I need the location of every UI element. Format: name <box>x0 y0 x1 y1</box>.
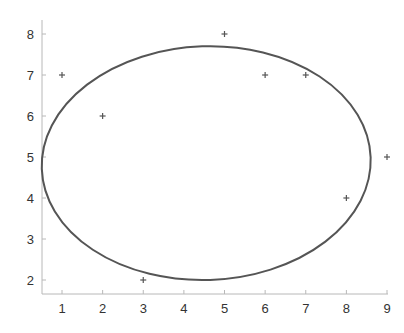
scatter-chart: 1234567892345678 <box>0 0 404 333</box>
data-point-marker <box>222 31 228 37</box>
y-tick-label: 5 <box>27 150 34 165</box>
ellipse-annotation <box>38 41 375 286</box>
y-tick-label: 3 <box>27 232 34 247</box>
x-tick-label: 5 <box>221 301 228 316</box>
data-point-marker <box>59 72 65 78</box>
x-tick-label: 4 <box>180 301 187 316</box>
x-tick-label: 9 <box>383 301 390 316</box>
data-point-marker <box>303 72 309 78</box>
data-point-marker <box>262 72 268 78</box>
x-tick-label: 7 <box>302 301 309 316</box>
x-tick-label: 6 <box>262 301 269 316</box>
data-point-marker <box>100 113 106 119</box>
x-tick-label: 3 <box>140 301 147 316</box>
x-tick-label: 2 <box>99 301 106 316</box>
y-tick-label: 4 <box>27 191 34 206</box>
data-point-marker <box>384 154 390 160</box>
tick-labels: 1234567892345678 <box>27 27 391 316</box>
data-point-marker <box>343 195 349 201</box>
data-point-marker <box>140 277 146 283</box>
x-tick-label: 1 <box>58 301 65 316</box>
y-tick-label: 7 <box>27 68 34 83</box>
data-points <box>59 31 390 283</box>
ellipse <box>38 41 375 286</box>
x-tick-label: 8 <box>343 301 350 316</box>
axes <box>42 20 388 294</box>
y-tick-label: 2 <box>27 273 34 288</box>
y-tick-label: 6 <box>27 109 34 124</box>
y-tick-label: 8 <box>27 27 34 42</box>
